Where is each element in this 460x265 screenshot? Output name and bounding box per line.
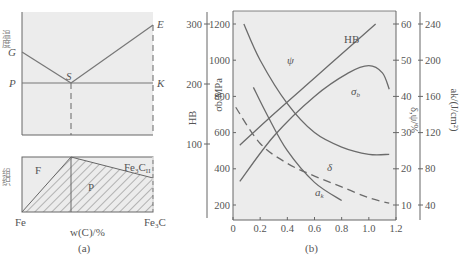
delta-curve-label: δ <box>327 161 333 173</box>
hb-tick-label: 100 <box>186 139 202 150</box>
sigma-b-tick-label: 400 <box>214 163 230 174</box>
figure-canvas: 温度 G E P S K 组织 F P Fe3CII Fe Fe3C w(C)/… <box>0 0 460 265</box>
point-p-label: P <box>8 77 16 89</box>
psi-curve-label: ψ <box>287 54 294 66</box>
ak-tick-label: 40 <box>425 200 436 211</box>
pearlite-label: P <box>88 181 94 193</box>
delta-psi-tick-label: 40 <box>401 91 412 102</box>
phase-diagram-background <box>22 12 153 135</box>
hb-tick-label: 300 <box>186 19 202 30</box>
ak-tick-label: 240 <box>425 19 441 30</box>
delta-psi-tick-label: 60 <box>401 19 412 30</box>
ak-tick-label: 200 <box>425 55 441 66</box>
delta-psi-tick-label: 50 <box>401 55 412 66</box>
sigma-b-tick-label: 600 <box>214 127 230 138</box>
ak-tick-label: 80 <box>425 163 436 174</box>
x-tick-label: 0.2 <box>254 223 267 234</box>
sigma-b-axis-title: σb/MPa <box>213 78 224 112</box>
hb-axis-title: HB <box>187 111 198 126</box>
ak-tick-label: 160 <box>425 91 441 102</box>
delta-psi-tick-label: 20 <box>401 163 412 174</box>
caption-b: (b) <box>305 242 318 255</box>
fe3c-axis-label: Fe3C <box>144 216 166 230</box>
fe-label: Fe <box>15 216 26 228</box>
x-tick-label: 0.4 <box>281 223 295 234</box>
microstructure-diagram: 组织 F P Fe3CII Fe Fe3C w(C)/% (a) <box>1 157 166 255</box>
carbon-content-label: w(C)/% <box>70 226 105 239</box>
ak-axis-title: ak/(J/cm²) <box>448 89 460 132</box>
properties-chart: 00.20.40.60.81.01.2120010008006004002003… <box>186 11 460 255</box>
hb-tick-label: 200 <box>186 79 202 90</box>
svg-text:Fe3C: Fe3C <box>144 216 166 230</box>
phase-diagram-top: 温度 G E P S K <box>1 12 165 135</box>
caption-a: (a) <box>78 242 91 255</box>
hb-curve-label: HB <box>344 33 359 45</box>
x-tick-label: 1.0 <box>362 223 375 234</box>
point-k-label: K <box>156 77 165 89</box>
sigma-b-tick-label: 1000 <box>209 55 230 66</box>
structure-label: 组织 <box>1 167 11 187</box>
delta-psi-axis-title: δ,ψ/% <box>409 107 420 133</box>
x-tick-label: 0 <box>230 223 235 234</box>
ferrite-label: F <box>35 164 41 176</box>
ak-tick-label: 120 <box>425 127 441 138</box>
point-g-label: G <box>8 46 16 58</box>
point-s-label: S <box>66 70 72 82</box>
x-tick-label: 0.6 <box>308 223 321 234</box>
point-e-label: E <box>156 18 164 30</box>
delta-psi-tick-label: 10 <box>401 200 412 211</box>
sigma-b-tick-label: 1200 <box>209 19 230 30</box>
x-tick-label: 1.2 <box>389 223 402 234</box>
x-tick-label: 0.8 <box>335 223 348 234</box>
sigma-b-tick-label: 200 <box>214 200 230 211</box>
